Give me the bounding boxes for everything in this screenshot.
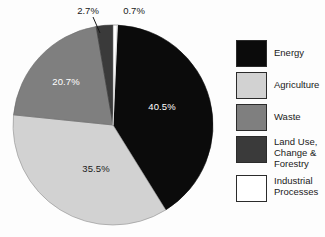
legend-swatch-industrial-processes xyxy=(236,175,267,202)
slice-label-energy: 40.5% xyxy=(148,101,176,112)
legend-swatch-agriculture xyxy=(236,72,267,99)
legend-swatch-land-use xyxy=(236,136,267,163)
chart-legend: Energy Agriculture Waste Land Use,Change… xyxy=(236,40,325,207)
legend-item-energy[interactable]: Energy xyxy=(236,40,325,67)
legend-label-industrial-processes: IndustrialProcesses xyxy=(274,175,318,197)
legend-item-industrial-processes[interactable]: IndustrialProcesses xyxy=(236,175,325,202)
legend-label-agriculture: Agriculture xyxy=(274,72,319,90)
legend-item-agriculture[interactable]: Agriculture xyxy=(236,72,325,99)
legend-swatch-waste xyxy=(236,104,267,131)
pie-chart-svg: 40.5% 35.5% 20.7% 2.7% 0.7% xyxy=(0,0,232,237)
pie-chart-figure: 40.5% 35.5% 20.7% 2.7% 0.7% Energy Agric… xyxy=(0,0,325,237)
legend-label-land-use: Land Use,Change &Forestry xyxy=(274,136,317,170)
legend-item-waste[interactable]: Waste xyxy=(236,104,325,131)
callout-label-land-use: 2.7% xyxy=(77,5,99,16)
pie-slices xyxy=(13,25,213,225)
slice-label-agriculture: 35.5% xyxy=(82,163,110,174)
legend-label-energy: Energy xyxy=(274,40,304,58)
legend-item-land-use[interactable]: Land Use,Change &Forestry xyxy=(236,136,325,170)
callout-label-industrial-processes: 0.7% xyxy=(123,5,145,16)
legend-label-waste: Waste xyxy=(274,104,301,122)
slice-label-waste: 20.7% xyxy=(52,76,80,87)
legend-swatch-energy xyxy=(236,40,267,67)
